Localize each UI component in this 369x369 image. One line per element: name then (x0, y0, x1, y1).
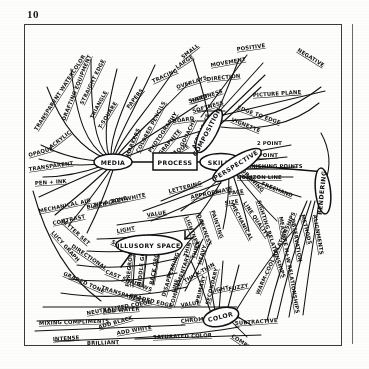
label-positive: POSITIVE (236, 42, 265, 52)
node-illusory-space[interactable]: ILLUSORY SPACE (116, 235, 182, 255)
label-graded-tone: GRADED TONE (63, 270, 106, 294)
label-pen-ink: PEN + INK (35, 178, 68, 186)
mind-map-svg: TRANSPARENT WATERCOLOR DRAFTING EQUIPMEN… (25, 25, 341, 345)
label-value-skills: VALUE (146, 209, 167, 218)
label-saturated-color: SATURATED COLOR (153, 332, 212, 340)
label-tracing: TRACING (151, 67, 179, 84)
diagram-frame: TRANSPARENT WATERCOLOR DRAFTING EQUIPMEN… (24, 24, 342, 346)
label-freehand: FREEHAND (261, 180, 295, 198)
facing-page-edge (352, 24, 353, 344)
node-rendering[interactable]: RENDERING (313, 167, 333, 215)
label-brilliant: BRILLIANT (87, 339, 120, 345)
label-direction: DIRECTION (206, 72, 240, 82)
label-opaque-2: OPAQUE (28, 145, 54, 158)
node-media-label: MEDIA (101, 159, 126, 166)
label-painting: PAINTING (210, 209, 225, 239)
node-illusory-space-label: ILLUSORY SPACE (117, 242, 180, 249)
node-media[interactable]: MEDIA (94, 154, 132, 170)
label-overlays: OVERLAYS (175, 74, 207, 90)
node-process[interactable]: PROCESS (153, 153, 197, 170)
label-face: FACE (228, 188, 244, 196)
label-observation: OBSERVATION (290, 218, 303, 262)
label-2-point: 2 POINT (257, 140, 282, 146)
label-light: LIGHT (116, 225, 135, 234)
scanned-page: 10 (0, 0, 369, 369)
label-add-white: ADD WHITE (116, 324, 152, 336)
node-color[interactable]: COLOR (201, 304, 240, 330)
label-fuzzy: FUZZY (228, 282, 249, 292)
page-number: 10 (27, 8, 39, 20)
label-negative: NEGATIVE (296, 47, 325, 68)
label-methods: METHODS (300, 214, 313, 245)
node-composition[interactable]: COMPOSITION (191, 106, 228, 157)
node-process-label: PROCESS (158, 159, 193, 166)
label-mechanical-aid: MECHANICAL AID (38, 197, 92, 214)
label-picture-plane: PICTURE PLANE (253, 89, 302, 98)
label-movement: MOVEMENT (210, 56, 246, 68)
